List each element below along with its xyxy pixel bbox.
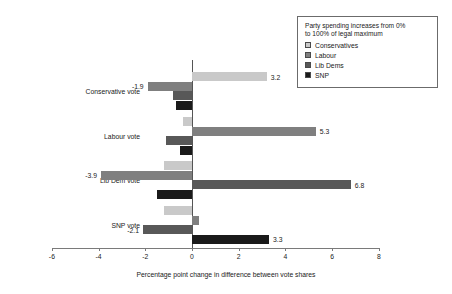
bar-labour-labour-vote <box>192 127 316 136</box>
legend-item-label: Conservatives <box>315 41 358 50</box>
bar-conservatives-snp-vote <box>164 206 192 215</box>
category-label-conservative-vote: Conservative vote <box>0 88 140 95</box>
bar-conservatives-lib-dem-vote <box>164 161 192 170</box>
x-tick-mark <box>192 248 193 251</box>
bar-value-label: -2.1 <box>121 226 139 233</box>
x-tick-label: -2 <box>142 253 148 260</box>
bar-chart: Party spending increases from 0% to 100%… <box>0 0 452 294</box>
legend-swatch-icon <box>305 52 311 58</box>
bar-labour-lib-dem-vote <box>101 171 192 180</box>
bar-snp-conservative-vote <box>176 101 192 110</box>
category-label-labour-vote: Labour vote <box>0 133 140 140</box>
category-label-snp-vote: SNP vote <box>0 222 140 229</box>
x-axis-title: Percentage point change in difference be… <box>0 271 452 278</box>
legend-item-conservatives[interactable]: Conservatives <box>305 40 431 50</box>
bar-value-label: 6.8 <box>355 181 364 188</box>
bar-snp-lib-dem-vote <box>157 190 192 199</box>
x-tick-mark <box>145 248 146 251</box>
x-tick-label: -6 <box>49 253 55 260</box>
bar-value-label: -1.9 <box>126 83 144 90</box>
legend-title-line-2: to 100% of legal maximum <box>305 30 383 37</box>
bar-snp-labour-vote <box>180 146 192 155</box>
bar-lib-dems-conservative-vote <box>173 91 192 100</box>
x-tick-label: 6 <box>330 253 334 260</box>
legend-title-line-1: Party spending increases from 0% <box>305 22 405 29</box>
bar-value-label: 3.3 <box>273 236 282 243</box>
legend-title: Party spending increases from 0% to 100%… <box>305 22 431 38</box>
x-tick-label: 4 <box>284 253 288 260</box>
x-tick-label: 8 <box>377 253 381 260</box>
x-tick-mark <box>239 248 240 251</box>
bar-lib-dems-labour-vote <box>166 136 192 145</box>
x-tick-label: 2 <box>237 253 241 260</box>
legend-item-labour[interactable]: Labour <box>305 50 431 60</box>
bar-value-label: 3.2 <box>271 73 280 80</box>
x-axis-line <box>52 248 379 249</box>
bar-lib-dems-snp-vote <box>143 225 192 234</box>
x-tick-mark <box>285 248 286 251</box>
bar-snp-snp-vote <box>192 235 269 244</box>
x-tick-mark <box>99 248 100 251</box>
legend-swatch-icon <box>305 42 311 48</box>
bar-labour-snp-vote <box>192 216 199 225</box>
x-tick-label: -4 <box>96 253 102 260</box>
bar-labour-conservative-vote <box>148 82 192 91</box>
bar-value-label: 5.3 <box>320 128 329 135</box>
x-tick-label: 0 <box>190 253 194 260</box>
bar-value-label: -3.9 <box>79 172 97 179</box>
bar-conservatives-conservative-vote <box>192 72 267 81</box>
x-tick-mark <box>52 248 53 251</box>
bar-conservatives-labour-vote <box>183 117 192 126</box>
bar-lib-dems-lib-dem-vote <box>192 180 351 189</box>
x-tick-mark <box>332 248 333 251</box>
x-tick-mark <box>379 248 380 251</box>
plot-area: Conservative vote3.2-1.9Labour vote5.3Li… <box>0 60 452 248</box>
legend-item-label: Labour <box>315 51 336 60</box>
